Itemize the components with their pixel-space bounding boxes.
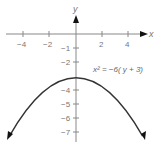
parabola-graph: x y −4 −2 2 4 −1 −2 −4 −5 −6 −7 x² = −6(… xyxy=(0,0,154,152)
y-tick-label: −1 xyxy=(61,44,71,53)
y-axis-arrow-icon xyxy=(73,15,79,23)
y-tick-label: −6 xyxy=(61,114,71,123)
x-tick-label: −2 xyxy=(43,40,53,49)
x-tick-label: −4 xyxy=(17,40,27,49)
x-axis-arrow-icon xyxy=(140,31,148,37)
y-tick-label: −4 xyxy=(61,86,71,95)
y-tick-label: −2 xyxy=(61,58,71,67)
y-axis-label: y xyxy=(72,4,78,14)
x-axis-label: x xyxy=(148,29,154,39)
equation-label: x² = −6( y + 3) xyxy=(92,65,143,74)
y-tick-label: −5 xyxy=(61,100,71,109)
x-tick-label: 4 xyxy=(125,40,130,49)
y-tick-label: −7 xyxy=(61,128,71,137)
x-tick-label: 2 xyxy=(99,40,104,49)
